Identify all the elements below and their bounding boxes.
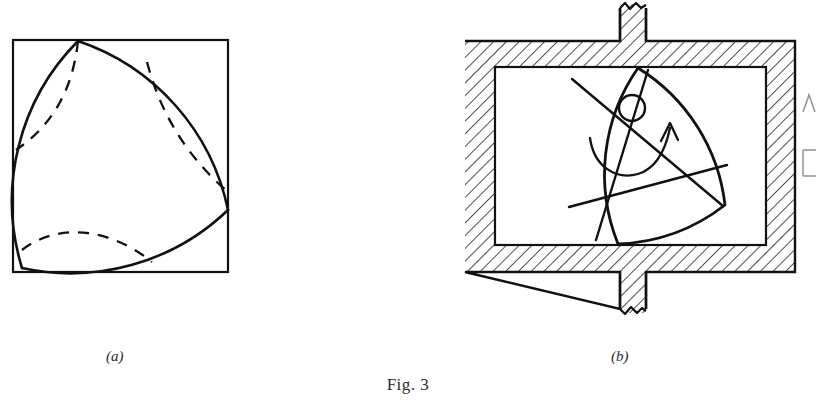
figure-title: Fig. 3 bbox=[0, 375, 816, 395]
figure-svg bbox=[0, 0, 816, 400]
panel-a bbox=[12, 40, 228, 273]
panel-b bbox=[465, 3, 795, 314]
panel-a-caption: (a) bbox=[106, 348, 124, 365]
figure-root: (a) (b) Fig. 3 bbox=[0, 0, 816, 400]
edge-artifact bbox=[803, 95, 816, 176]
panel-b-caption: (b) bbox=[611, 348, 629, 365]
